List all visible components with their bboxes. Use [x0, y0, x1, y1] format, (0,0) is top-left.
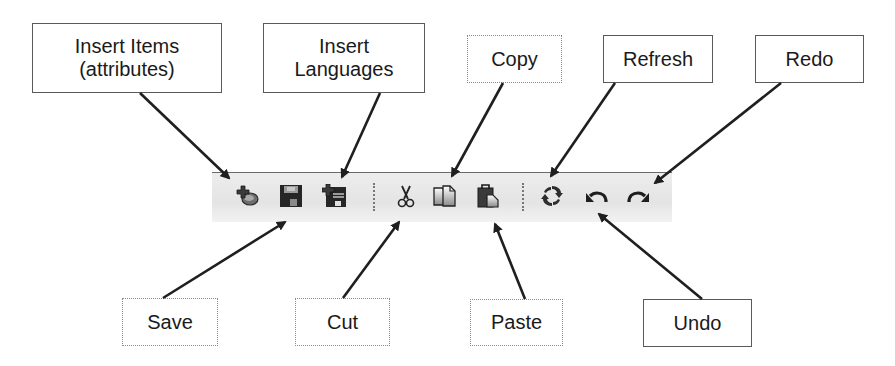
toolbar-separator: [373, 183, 375, 211]
scissors-icon: [394, 184, 418, 208]
insert-language-icon: [322, 184, 346, 208]
callout-undo: Undo: [643, 299, 752, 347]
callout-label: Insert: [295, 35, 394, 58]
redo-button[interactable]: [626, 184, 650, 208]
callout-insert-languages: Insert Languages: [263, 23, 425, 93]
callout-refresh: Refresh: [603, 35, 713, 83]
arrow-undo: [599, 214, 702, 299]
callout-insert-items: Insert Items (attributes): [32, 23, 222, 93]
callout-label: Paste: [491, 311, 542, 334]
refresh-icon: [540, 184, 564, 208]
insert-items-button[interactable]: [236, 184, 260, 208]
callout-copy: Copy: [467, 35, 562, 83]
callout-label: Save: [147, 311, 193, 334]
callout-label: Cut: [327, 311, 358, 334]
copy-icon: [433, 184, 457, 208]
arrow-cut: [343, 222, 399, 298]
refresh-button[interactable]: [540, 184, 564, 208]
toolbar-separator: [522, 183, 524, 211]
toolbar: [212, 172, 672, 222]
arrow-insert-languages: [342, 93, 380, 177]
callout-cut: Cut: [295, 298, 390, 346]
cut-button[interactable]: [394, 184, 418, 208]
redo-icon: [626, 184, 650, 208]
undo-icon: [585, 184, 609, 208]
arrow-redo: [655, 83, 781, 183]
callout-label: Redo: [786, 48, 834, 71]
callout-paste: Paste: [470, 299, 563, 346]
arrow-insert-items: [140, 93, 229, 178]
copy-button[interactable]: [433, 184, 457, 208]
callout-redo: Redo: [755, 35, 864, 83]
arrow-save: [163, 222, 285, 298]
callout-save: Save: [122, 298, 218, 346]
arrow-paste: [495, 224, 525, 299]
arrow-refresh: [551, 83, 615, 176]
save-icon: [279, 184, 303, 208]
callout-label: Languages: [295, 58, 394, 81]
paste-icon: [476, 184, 500, 208]
callout-label: Undo: [674, 312, 722, 335]
save-button[interactable]: [279, 184, 303, 208]
callout-label: Refresh: [623, 48, 693, 71]
insert-languages-button[interactable]: [322, 184, 346, 208]
callout-label: (attributes): [75, 58, 179, 81]
callout-label: Copy: [491, 48, 538, 71]
insert-item-icon: [236, 184, 260, 208]
arrow-copy: [452, 83, 503, 176]
paste-button[interactable]: [476, 184, 500, 208]
undo-button[interactable]: [585, 184, 609, 208]
callout-label: Insert Items: [75, 35, 179, 58]
